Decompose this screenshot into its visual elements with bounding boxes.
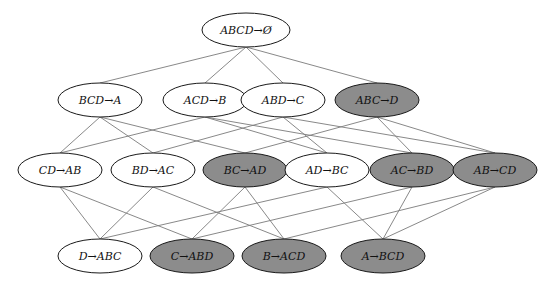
edge-ad-a [327,187,383,239]
node-label: ABC→D [355,94,399,107]
node-abd: ABD→C [241,83,325,117]
edge-abcd-abc [246,47,377,83]
node-label: C→ABD [171,250,214,263]
node-cd: CD→AB [18,153,102,187]
edge-bc-c [192,187,245,239]
node-label: BCD→A [78,94,122,107]
node-label: ABD→C [261,94,305,107]
node-ab: AB→CD [453,153,537,187]
edge-bcd-bd [100,117,153,153]
node-d: D→ABC [58,239,142,273]
node-label: ABCD→Ø [219,24,273,37]
node-label: D→ABC [78,250,122,263]
edge-ad-d [100,187,327,239]
node-abc: ABC→D [335,83,419,117]
node-label: CD→AB [39,164,81,177]
edge-abcd-bcd [100,47,246,83]
node-ad: AD→BC [285,153,369,187]
node-a: A→BCD [341,239,425,273]
node-bcd: BCD→A [58,83,142,117]
edge-ab-a [383,187,495,239]
node-label: AB→CD [473,164,517,177]
node-label: BC→AD [223,164,267,177]
edge-abd-ad [283,117,327,153]
node-ac: AC→BD [370,153,454,187]
node-label: BD→AC [131,164,175,177]
edge-ab-b [284,187,495,239]
edge-ac-a [383,187,412,239]
node-bc: BC→AD [203,153,287,187]
edge-ac-c [192,187,412,239]
edge-bd-d [100,187,153,239]
node-b: B→ACD [242,239,326,273]
node-acd: ACD→B [163,83,247,117]
edge-layer [60,47,495,239]
node-bd: BD→AC [111,153,195,187]
node-abcd: ABCD→Ø [202,13,290,47]
node-label: AD→BC [305,164,349,177]
edge-abd-ab [283,117,495,153]
node-c: C→ABD [150,239,234,273]
node-label: ACD→B [183,94,226,107]
node-label: A→BCD [361,250,405,263]
lattice-diagram: ABCD→ØBCD→AACD→BABD→CABC→DCD→ABBD→ACBC→A… [0,0,541,283]
node-label: AC→BD [390,164,434,177]
node-label: B→ACD [262,250,306,263]
edge-acd-cd [60,117,205,153]
